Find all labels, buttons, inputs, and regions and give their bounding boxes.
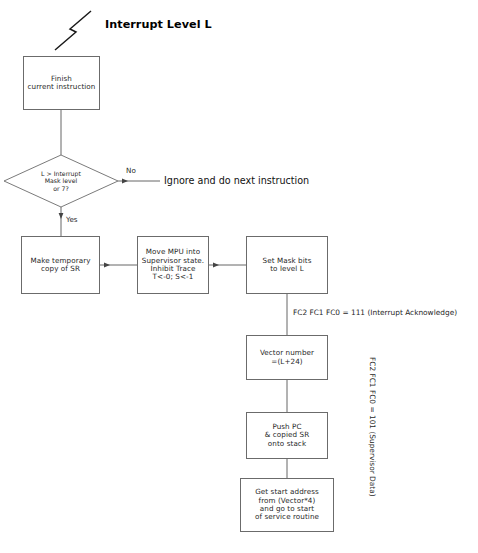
node-supervisor-state: Move MPU into Supervisor state. Inhibit … bbox=[137, 236, 209, 294]
annotation-fc-interrupt-acknowledge: FC2 FC1 FC0 = 111 (Interrupt Acknowledge… bbox=[293, 308, 457, 317]
node-get-start-address: Get start address from (Vector*4) and go… bbox=[240, 478, 334, 532]
edge-label-no: No bbox=[126, 166, 136, 175]
node-copy-sr: Make temporary copy of SR bbox=[21, 236, 100, 294]
lightning-bolt-icon bbox=[55, 11, 91, 50]
node-push-pc: Push PC & copied SR onto stack bbox=[246, 412, 328, 459]
decision-label: L > Interrupt Mask level or 7? bbox=[24, 170, 98, 192]
edge-label-yes: Yes bbox=[66, 215, 78, 224]
annotation-ignore: Ignore and do next instruction bbox=[164, 175, 309, 186]
node-set-mask-bits: Set Mask bits to level L bbox=[246, 236, 328, 294]
node-finish-instruction: Finish current instruction bbox=[23, 56, 100, 110]
flowchart-canvas: Interrupt Level L Finish current instruc… bbox=[0, 0, 478, 553]
page-title: Interrupt Level L bbox=[105, 18, 212, 31]
node-vector-number: Vector number =(L+24) bbox=[246, 335, 328, 380]
annotation-fc-supervisor-data: FC2 FC1 FC0 = 101 (Supervisor Data) bbox=[368, 357, 377, 497]
